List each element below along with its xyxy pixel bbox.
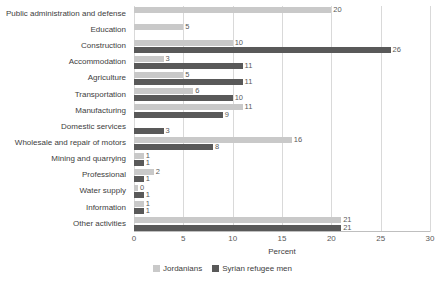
- category-label-text: Manufacturing: [75, 107, 126, 116]
- bar-group: 01: [134, 184, 430, 200]
- x-tick-label: 15: [278, 234, 287, 243]
- bar-value-label: 5: [183, 71, 189, 79]
- x-tick-label: 30: [426, 234, 435, 243]
- legend-item[interactable]: Syrian refugee men: [212, 264, 292, 273]
- bar-group: 168: [134, 135, 430, 151]
- x-tick-label: 0: [132, 234, 136, 243]
- bar-slot: 5: [134, 72, 430, 78]
- category-label: Construction: [0, 38, 126, 54]
- bar-slot: 8: [134, 144, 430, 150]
- bar-slot: 20: [134, 7, 430, 13]
- legend-item[interactable]: Jordanians: [153, 264, 202, 273]
- category-label: Transportation: [0, 87, 126, 103]
- bar-slot: 21: [134, 217, 430, 223]
- category-label-text: Education: [90, 26, 126, 35]
- bar: [134, 56, 164, 62]
- bar-value-label: 2: [154, 168, 160, 176]
- bar-group: 11: [134, 151, 430, 167]
- bar-slot: 1: [134, 176, 430, 182]
- category-label: Education: [0, 22, 126, 38]
- bar-value-label: 5: [183, 23, 189, 31]
- bar-slot: 1: [134, 201, 430, 207]
- bar-value-label: 10: [233, 95, 243, 103]
- bar: [134, 201, 144, 207]
- bar-slot: [134, 120, 430, 126]
- bar-slot: 10: [134, 95, 430, 101]
- category-label-text: Accommodation: [69, 58, 126, 67]
- category-label: Mining and quarrying: [0, 151, 126, 167]
- bar-value-label: 3: [164, 127, 170, 135]
- bar: [134, 160, 144, 166]
- bar-slot: 1: [134, 192, 430, 198]
- bar-group: 119: [134, 103, 430, 119]
- bar-value-label: 1: [144, 208, 150, 216]
- bar: [134, 208, 144, 214]
- bar: [134, 153, 144, 159]
- bar: [134, 169, 154, 175]
- bar: [134, 7, 331, 13]
- bar: [134, 225, 341, 231]
- bar: [134, 176, 144, 182]
- bar: [134, 112, 223, 118]
- legend-label: Jordanians: [163, 264, 202, 273]
- bar-slot: 21: [134, 225, 430, 231]
- chart-title-cutoff: [0, 0, 445, 5]
- bar-value-label: 9: [223, 111, 229, 119]
- legend-swatch-icon: [153, 265, 160, 272]
- bar-slot: 0: [134, 185, 430, 191]
- category-label: Agriculture: [0, 71, 126, 87]
- bar-slot: 3: [134, 128, 430, 134]
- bar: [134, 63, 243, 69]
- bar-group: 11: [134, 200, 430, 216]
- x-axis-label: Percent: [134, 247, 430, 256]
- bar: [134, 217, 341, 223]
- category-label-text: Construction: [81, 42, 126, 51]
- bar-value-label: 21: [341, 224, 351, 232]
- bar-slot: 26: [134, 47, 430, 53]
- category-label: Accommodation: [0, 54, 126, 70]
- legend-swatch-icon: [212, 265, 219, 272]
- gridline: [430, 6, 431, 232]
- bar: [134, 128, 164, 134]
- bar-slot: 16: [134, 137, 430, 143]
- bar-group: 610: [134, 87, 430, 103]
- x-tick-label: 20: [327, 234, 336, 243]
- bar-group: 511: [134, 71, 430, 87]
- category-label-text: Transportation: [75, 91, 126, 100]
- bar: [134, 47, 391, 53]
- bar-value-label: 20: [331, 7, 341, 15]
- bar-slot: 5: [134, 24, 430, 30]
- category-label-text: Mining and quarrying: [51, 155, 126, 164]
- bar-slot: [134, 31, 430, 37]
- bar-value-label: 11: [243, 78, 253, 86]
- x-tick-label: 10: [228, 234, 237, 243]
- bar-slot: 2: [134, 169, 430, 175]
- bar: [134, 24, 183, 30]
- bar-rows: 20510263115116101193168112101112121: [134, 6, 430, 232]
- bar-slot: 11: [134, 63, 430, 69]
- bar: [134, 40, 233, 46]
- bar-value-label: 1: [144, 159, 150, 167]
- bar: [134, 144, 213, 150]
- category-label: Wholesale and repair of motors: [0, 135, 126, 151]
- bar: [134, 79, 243, 85]
- bar-slot: 10: [134, 40, 430, 46]
- chart-legend: JordaniansSyrian refugee men: [0, 264, 445, 273]
- bar: [134, 137, 292, 143]
- category-label: Manufacturing: [0, 103, 126, 119]
- bar: [134, 95, 233, 101]
- bar-slot: 9: [134, 112, 430, 118]
- bar-slot: 1: [134, 153, 430, 159]
- bar-value-label: 6: [193, 87, 199, 95]
- category-label: Domestic services: [0, 119, 126, 135]
- bar-group: 21: [134, 167, 430, 183]
- category-axis: Public administration and defenseEducati…: [0, 6, 130, 232]
- category-label-text: Wholesale and repair of motors: [15, 139, 126, 148]
- bar-group: 20: [134, 6, 430, 22]
- category-label-text: Professional: [82, 171, 126, 180]
- bar-chart: Public administration and defenseEducati…: [0, 0, 445, 285]
- bar-slot: 1: [134, 208, 430, 214]
- category-label-text: Information: [86, 204, 126, 213]
- bar-group: 2121: [134, 216, 430, 232]
- bar-value-label: 1: [144, 175, 150, 183]
